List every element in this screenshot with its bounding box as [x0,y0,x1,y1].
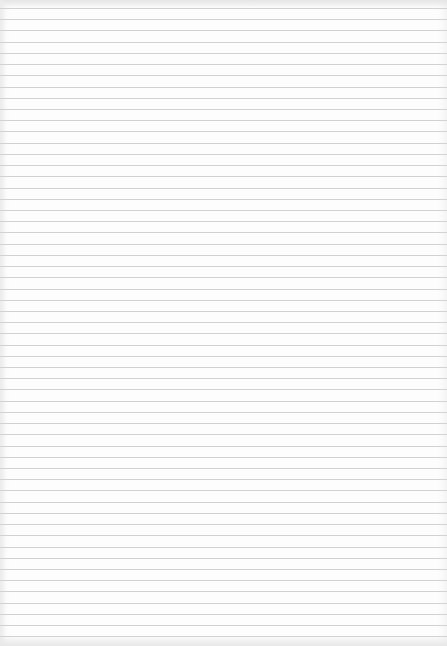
ruled-line [0,434,447,435]
ruled-line [0,210,447,211]
ruled-line [0,266,447,267]
ruled-line [0,221,447,222]
ruled-line [0,300,447,301]
ruled-line [0,19,447,20]
ruled-line [0,446,447,447]
ruled-line [0,64,447,65]
ruled-line [0,345,447,346]
ruled-line [0,98,447,99]
ruled-line [0,188,447,189]
ruled-line [0,625,447,626]
ruled-line [0,412,447,413]
ruled-line [0,367,447,368]
ruled-line [0,277,447,278]
ruled-line [0,109,447,110]
ruled-line [0,457,447,458]
ruled-line [0,502,447,503]
ruled-line [0,244,447,245]
ruled-line [0,603,447,604]
ruled-line [0,131,447,132]
ruled-line [0,42,447,43]
ruled-line [0,176,447,177]
ruled-line [0,547,447,548]
ruled-line [0,120,447,121]
ruled-paper-sheet [0,0,447,646]
ruled-line [0,53,447,54]
ruled-line [0,535,447,536]
ruled-line [0,8,447,9]
ruled-line [0,322,447,323]
ruled-line [0,614,447,615]
ruled-line [0,30,447,31]
ruled-line [0,75,447,76]
ruled-line [0,143,447,144]
ruled-line [0,165,447,166]
ruled-line [0,232,447,233]
ruled-line [0,87,447,88]
ruled-line [0,378,447,379]
ruled-line [0,356,447,357]
ruled-line [0,423,447,424]
ruled-line [0,255,447,256]
ruled-line [0,479,447,480]
ruled-line [0,636,447,637]
paper-left-shadow [0,0,6,646]
ruled-line [0,199,447,200]
ruled-line [0,580,447,581]
ruled-line [0,468,447,469]
ruled-line [0,389,447,390]
paper-top-shadow [0,0,447,8]
paper-bottom-shadow [0,636,447,646]
ruled-line [0,289,447,290]
ruled-line [0,591,447,592]
ruled-line [0,311,447,312]
ruled-line [0,154,447,155]
ruled-line [0,490,447,491]
ruled-line [0,524,447,525]
ruled-line [0,558,447,559]
ruled-line [0,333,447,334]
ruled-line [0,569,447,570]
ruled-line [0,513,447,514]
ruled-line [0,401,447,402]
